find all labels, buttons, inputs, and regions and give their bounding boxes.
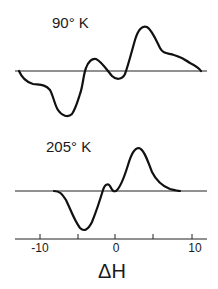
curve-205k [54,148,180,230]
bottom-panel-title: 205° K [46,138,91,155]
x-tick-label: 0 [113,241,120,255]
x-tick-label: -10 [31,241,48,255]
x-axis-label: ΔH [98,260,126,283]
top-panel-title: 90° K [52,14,89,31]
x-tick-label: 10 [188,241,201,255]
